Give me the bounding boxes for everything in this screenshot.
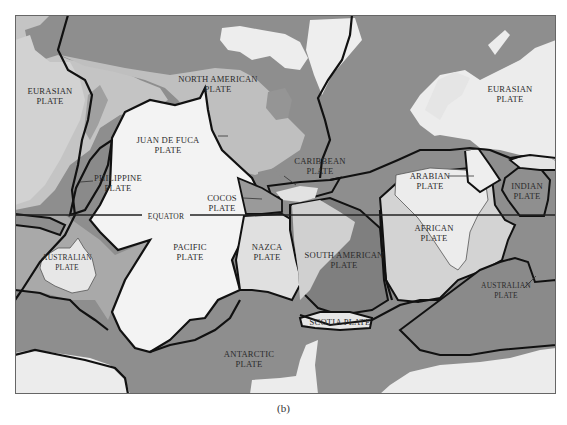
label-north-american-1: NORTH AMERICAN xyxy=(178,74,258,84)
label-juan-de-fuca-2: PLATE xyxy=(155,145,182,155)
label-pacific-2: PLATE xyxy=(177,252,204,262)
label-antarctic-1: ANTARCTIC xyxy=(224,349,274,359)
figure-caption: (b) xyxy=(0,402,567,414)
label-australian-west-1: AUSTRALIAN xyxy=(42,253,92,262)
label-caribbean-1: CARIBBEAN xyxy=(294,156,346,166)
label-antarctic-2: PLATE xyxy=(236,359,263,369)
label-australian-east-1: AUSTRALIAN xyxy=(481,281,531,290)
equator-label: EQUATOR xyxy=(148,212,184,221)
label-nazca-1: NAZCA xyxy=(252,242,283,252)
label-scotia: SCOTIA PLATE xyxy=(310,317,371,327)
label-caribbean-2: PLATE xyxy=(307,166,334,176)
label-philippine-2: PLATE xyxy=(105,183,132,193)
label-juan-de-fuca-1: JUAN DE FUCA xyxy=(136,135,200,145)
label-north-american-2: PLATE xyxy=(205,84,232,94)
label-cocos-2: PLATE xyxy=(209,203,236,213)
label-arabian-2: PLATE xyxy=(417,181,444,191)
label-eurasian-east-1: EURASIAN xyxy=(487,84,533,94)
label-eurasian-east-2: PLATE xyxy=(497,94,524,104)
label-african-2: PLATE xyxy=(421,233,448,243)
label-indian-1: INDIAN xyxy=(511,181,543,191)
tectonic-plate-map: EQUATOR EURASIAN PLATE NORTH AMERICAN PL… xyxy=(15,15,556,394)
label-cocos-1: COCOS xyxy=(207,193,237,203)
label-pacific-1: PACIFIC xyxy=(173,242,207,252)
label-philippine-1: PHILIPPINE xyxy=(94,173,142,183)
label-australian-west-2: PLATE xyxy=(55,263,79,272)
label-south-american-1: SOUTH AMERICAN xyxy=(305,250,385,260)
label-nazca-2: PLATE xyxy=(254,252,281,262)
label-australian-east-2: PLATE xyxy=(494,291,518,300)
label-arabian-1: ARABIAN xyxy=(410,171,451,181)
label-african-1: AFRICAN xyxy=(414,223,454,233)
label-south-american-2: PLATE xyxy=(331,260,358,270)
label-eurasian-west-1: EURASIAN xyxy=(27,86,73,96)
label-indian-2: PLATE xyxy=(514,191,541,201)
label-eurasian-west-2: PLATE xyxy=(37,96,64,106)
